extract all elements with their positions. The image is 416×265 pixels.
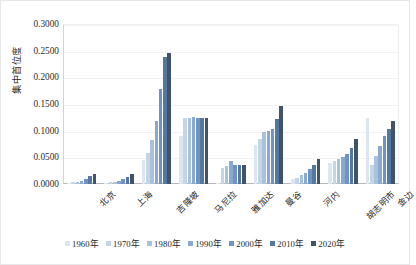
bar-group [63, 24, 100, 184]
bar [242, 165, 246, 184]
legend-label: 2010年 [277, 237, 304, 250]
bar [221, 168, 225, 184]
legend-swatch-icon [270, 241, 275, 246]
bar [383, 136, 387, 184]
legend-label: 2020年 [318, 237, 345, 250]
bar [216, 183, 220, 184]
x-axis-label-3: 马尼拉 [211, 187, 239, 215]
legend-swatch-icon [188, 241, 193, 246]
bar [179, 136, 183, 184]
legend-label: 1980年 [154, 237, 181, 250]
bar [300, 175, 304, 184]
bar [183, 118, 187, 184]
bar [155, 121, 159, 184]
x-axis-label-7: 胡志明市 [363, 187, 398, 222]
x-axis-label-4: 雅加达 [248, 187, 276, 215]
bar [225, 166, 229, 184]
legend-item-1970年[interactable]: 1970年 [106, 237, 140, 250]
bar [275, 119, 279, 184]
bar [238, 165, 242, 184]
bar [317, 159, 321, 184]
bar [267, 131, 271, 184]
bar [345, 154, 349, 184]
bar [333, 161, 337, 184]
bar [328, 163, 332, 184]
bar [126, 177, 130, 184]
legend-item-1980年[interactable]: 1980年 [147, 237, 181, 250]
bar [188, 118, 192, 184]
bar-group [324, 24, 361, 184]
bar [374, 156, 378, 184]
bar [109, 182, 113, 184]
legend-item-1960年[interactable]: 1960年 [65, 237, 99, 250]
bar [304, 173, 308, 184]
bar [104, 183, 108, 184]
bar-group [250, 24, 287, 184]
x-axis-label-5: 曼谷 [283, 187, 305, 209]
legend-swatch-icon [229, 241, 234, 246]
x-axis-label-1: 上海 [133, 187, 155, 209]
bar [167, 53, 171, 184]
bar-group [138, 24, 175, 184]
bar [71, 182, 75, 184]
x-axis-label-0: 北京 [96, 187, 118, 209]
bar [295, 178, 299, 184]
bar [271, 129, 275, 184]
bar [200, 118, 204, 184]
bar [159, 89, 163, 184]
bar [341, 157, 345, 184]
chart-legend: 1960年1970年1980年1990年2000年2010年2020年 [1, 237, 409, 250]
bar [163, 57, 167, 184]
bar [391, 121, 395, 184]
bar-group [212, 24, 249, 184]
bar [121, 179, 125, 184]
bar [370, 165, 374, 184]
legend-label: 1970年 [113, 237, 140, 250]
x-axis-label-8: 金边 [395, 187, 416, 209]
y-axis-tick-1: 0.0500 [5, 152, 59, 162]
legend-item-2010年[interactable]: 2010年 [270, 237, 304, 250]
legend-item-2020年[interactable]: 2020年 [311, 237, 345, 250]
bar [350, 148, 354, 184]
bar [366, 118, 370, 184]
bar [84, 179, 88, 184]
bar [142, 160, 146, 184]
bar [150, 140, 154, 184]
bar [312, 165, 316, 184]
x-axis-label-2: 吉隆坡 [173, 187, 201, 215]
legend-label: 2000年 [236, 237, 263, 250]
bar [113, 182, 117, 184]
legend-item-1990年[interactable]: 1990年 [188, 237, 222, 250]
bar-group [287, 24, 324, 184]
y-axis-label: 集中首位度 [9, 28, 23, 112]
bar [117, 181, 121, 184]
legend-label: 1960年 [72, 237, 99, 250]
legend-item-2000年[interactable]: 2000年 [229, 237, 263, 250]
bar [229, 161, 233, 184]
bar [262, 132, 266, 184]
bar [196, 118, 200, 184]
x-axis-label-6: 河内 [320, 187, 342, 209]
bar [233, 165, 237, 184]
legend-label: 1990年 [195, 237, 222, 250]
bar-group [100, 24, 137, 184]
legend-swatch-icon [147, 241, 152, 246]
bar-group [362, 24, 399, 184]
bar [387, 129, 391, 184]
bar [130, 174, 134, 184]
bar [337, 159, 341, 184]
y-axis-tick-0: 0.0000 [5, 179, 59, 189]
bar [291, 179, 295, 184]
bar [378, 146, 382, 184]
bar [67, 183, 71, 184]
legend-swatch-icon [65, 241, 70, 246]
bar [88, 176, 92, 184]
y-axis-tick-2: 0.1000 [5, 126, 59, 136]
bar [80, 181, 84, 184]
legend-swatch-icon [311, 241, 316, 246]
bar [258, 139, 262, 184]
bar [146, 153, 150, 184]
bar-group [175, 24, 212, 184]
bar [354, 139, 358, 184]
